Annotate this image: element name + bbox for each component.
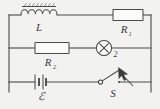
lamp-number-label: 2 — [114, 50, 118, 59]
circuit-wires — [9, 15, 151, 92]
resistor1-subscript: 1 — [128, 30, 131, 37]
battery-emf-label: ℰ — [38, 90, 46, 102]
inductor-symbol — [21, 3, 57, 15]
switch-symbol — [98, 70, 120, 85]
switch-label: S — [110, 87, 116, 99]
inductor-coil — [21, 10, 57, 15]
inductor-label: L — [35, 21, 42, 33]
inductor-core-hatching — [24, 3, 55, 6]
switch-pivot-contact — [98, 80, 102, 84]
resistor1-body — [113, 10, 143, 21]
circuit-canvas: L R 1 R 2 2 ℰ S — [0, 0, 160, 109]
switch-fixed-contact — [118, 81, 120, 83]
resistor2-subscript: 2 — [53, 63, 57, 70]
resistor2-body — [35, 43, 69, 54]
circuit-diagram-figure: L R 1 R 2 2 ℰ S — [0, 0, 160, 109]
resistor2-label: R — [44, 56, 52, 68]
battery-symbol — [35, 75, 46, 90]
resistor1-label: R — [120, 23, 128, 35]
switch-blade — [102, 70, 120, 81]
arrow-cursor-icon — [119, 68, 134, 87]
lamp-symbol — [96, 40, 111, 55]
